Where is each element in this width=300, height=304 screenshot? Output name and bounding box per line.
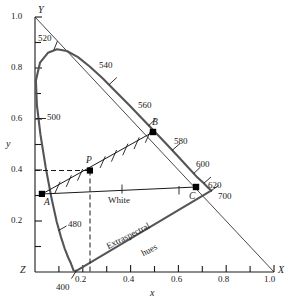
wavelength-label-400: 400	[56, 283, 70, 292]
white-point-label: White	[108, 196, 130, 205]
purity-scale-ticks	[55, 131, 151, 193]
x-axis-ticks	[59, 265, 274, 272]
x-axis-name: X	[278, 265, 284, 275]
x-tick-label-0.6: 0.6	[171, 275, 182, 284]
chromaticity-diagram-canvas	[0, 0, 300, 304]
y-tick-label-0.6: 0.6	[11, 114, 22, 123]
point-marker-p	[87, 167, 93, 173]
line-a-to-c	[42, 187, 196, 194]
y-tick-label-0.2: 0.2	[11, 216, 22, 225]
point-label-b: B	[152, 118, 158, 128]
x-axis-label: x	[150, 288, 154, 298]
x-tick-label-0.8: 0.8	[218, 275, 229, 284]
point-marker-b	[150, 129, 156, 135]
wavelength-label-560: 560	[138, 101, 152, 110]
wavelength-label-540: 540	[99, 61, 113, 70]
y-axis-label: y	[6, 139, 10, 149]
x-tick-label-0.4: 0.4	[123, 275, 134, 284]
y-tick-label-1.0: 1.0	[11, 12, 22, 21]
y-tick-label-0.8: 0.8	[11, 63, 22, 72]
wavelength-label-700: 700	[218, 192, 232, 201]
origin-name-z: Z	[20, 265, 26, 275]
x-tick-label-0.2: 0.2	[75, 275, 86, 284]
x-tick-label-1.0: 1.0	[264, 275, 275, 284]
wavelength-label-500: 500	[47, 113, 61, 122]
y-axis-name: Y	[38, 5, 44, 15]
y-tick-label-0.4: 0.4	[11, 165, 22, 174]
wavelength-label-480: 480	[68, 220, 82, 229]
triangle-hypotenuse	[35, 17, 274, 272]
cie-chromaticity-figure: Y X Z y x 1.0 0.8 0.6 0.4 0.2 0.2 0.4 0.…	[0, 0, 300, 304]
wavelength-label-600: 600	[196, 160, 210, 169]
wavelength-label-620: 620	[208, 181, 222, 190]
point-label-a: A	[44, 198, 50, 208]
wavelength-label-520: 520	[38, 34, 52, 43]
wavelength-label-580: 580	[174, 137, 188, 146]
point-label-p: P	[86, 156, 92, 166]
point-marker-c	[193, 184, 199, 190]
point-label-c: C	[189, 192, 195, 202]
